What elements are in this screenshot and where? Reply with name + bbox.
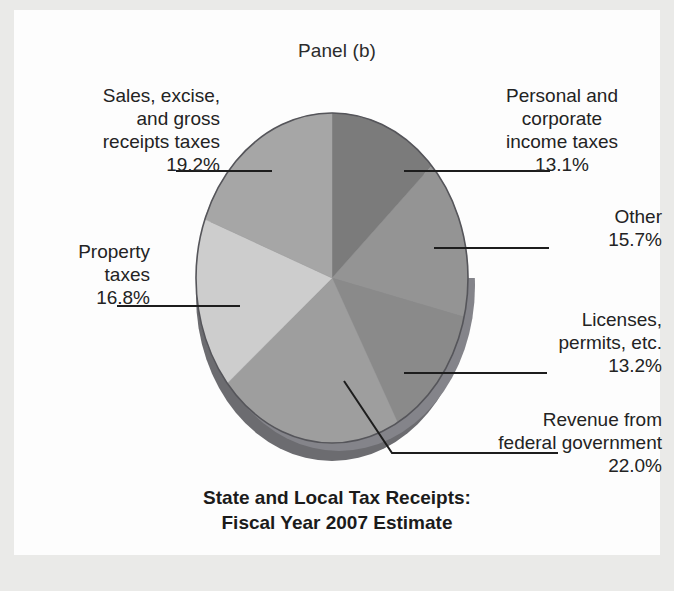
slice-label-personal-corporate-income-taxes: Personal and corporate income taxes 13.1… — [462, 84, 662, 176]
slice-label-licenses-permits: Licenses, permits, etc. 13.2% — [452, 308, 662, 377]
chart-title: State and Local Tax Receipts: Fiscal Yea… — [0, 485, 674, 535]
slice-label-revenue-from-federal-government: Revenue from federal government 22.0% — [418, 408, 662, 477]
slice-label-other: Other 15.7% — [462, 205, 662, 251]
panel-label: Panel (b) — [0, 40, 674, 62]
slice-label-sales: Sales, excise, and gross receipts taxes … — [10, 84, 220, 176]
slice-label-property: Property taxes 16.8% — [10, 240, 150, 309]
figure-page: Panel (b) Sales, excise, and g — [0, 0, 674, 591]
